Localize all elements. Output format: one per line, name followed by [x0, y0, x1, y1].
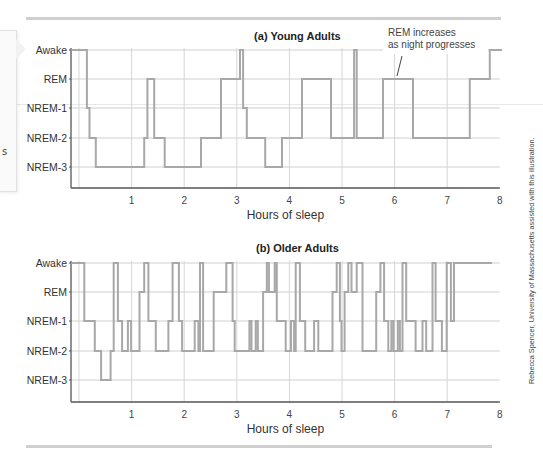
sleep-stage-figure: AwakeREMNREM-1NREM-2NREM-312345678(a) Yo…: [0, 0, 543, 463]
y-tick-label: NREM-2: [27, 132, 67, 144]
annotation-pointer: [397, 56, 402, 76]
x-tick-label: 7: [444, 409, 450, 420]
x-tick-label: 5: [339, 195, 345, 206]
x-tick-label: 3: [234, 409, 240, 420]
x-axis-label: Hours of sleep: [247, 208, 325, 222]
x-tick-label: 5: [339, 409, 345, 420]
y-tick-label: REM: [44, 286, 67, 298]
y-tick-label: REM: [44, 73, 67, 85]
illustration-credit: Rebecca Spencer, University of Massachus…: [527, 137, 536, 384]
y-tick-label: NREM-3: [27, 161, 67, 173]
annotation-text: as night progresses: [388, 39, 475, 50]
x-tick-label: 2: [181, 409, 187, 420]
x-tick-label: 1: [129, 195, 135, 206]
x-tick-label: 1: [129, 409, 135, 420]
x-tick-label: 2: [181, 195, 187, 206]
chart-title: (b) Older Adults: [256, 242, 339, 254]
x-tick-label: 3: [234, 195, 240, 206]
chart-young-adults: AwakeREMNREM-1NREM-2NREM-312345678(a) Yo…: [27, 26, 503, 222]
x-tick-label: 7: [444, 195, 450, 206]
y-tick-label: NREM-2: [27, 345, 67, 357]
x-tick-label: 4: [287, 409, 293, 420]
annotation-text: REM increases: [388, 27, 456, 38]
x-tick-label: 8: [497, 409, 503, 420]
y-tick-label: NREM-3: [27, 374, 67, 386]
x-tick-label: 6: [392, 195, 398, 206]
y-tick-label: Awake: [36, 257, 67, 269]
x-tick-label: 8: [497, 195, 503, 206]
x-tick-label: 4: [287, 195, 293, 206]
y-tick-label: Awake: [36, 44, 67, 56]
x-tick-label: 6: [392, 409, 398, 420]
chart-older-adults: AwakeREMNREM-1NREM-2NREM-312345678(b) Ol…: [27, 242, 503, 436]
x-axis-label: Hours of sleep: [247, 422, 325, 436]
chart-title: (a) Young Adults: [254, 30, 341, 42]
y-tick-label: NREM-1: [27, 315, 67, 327]
y-tick-label: NREM-1: [27, 102, 67, 114]
